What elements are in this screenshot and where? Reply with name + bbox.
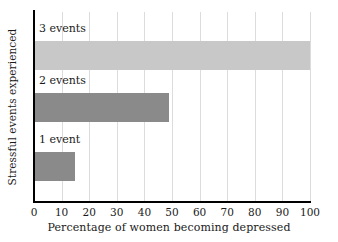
x-tick-label: 30 xyxy=(102,205,132,219)
chart-figure: Stressful events experienced 3 events2 e… xyxy=(0,0,338,242)
x-tick-label: 10 xyxy=(47,205,77,219)
x-tick-label: 40 xyxy=(129,205,159,219)
x-axis-label: Percentage of women becoming depressed xyxy=(0,221,338,235)
x-tick-label: 50 xyxy=(157,205,187,219)
y-axis-line xyxy=(33,10,35,202)
bar xyxy=(34,93,169,122)
x-axis-line xyxy=(33,201,311,203)
bar-category-label: 3 events xyxy=(39,22,86,35)
bar-category-label: 1 event xyxy=(39,133,80,146)
x-tick-label: 20 xyxy=(74,205,104,219)
x-tick-label: 100 xyxy=(295,205,325,219)
gridline xyxy=(310,12,311,202)
y-axis-label-container: Stressful events experienced xyxy=(2,12,18,202)
bar xyxy=(34,41,310,70)
x-tick-label: 90 xyxy=(267,205,297,219)
bar xyxy=(34,152,75,181)
x-tick-label: 60 xyxy=(185,205,215,219)
bar-category-label: 2 events xyxy=(39,74,86,87)
x-tick-label: 70 xyxy=(212,205,242,219)
x-tick-label: 0 xyxy=(19,205,49,219)
plot-area: 3 events2 events1 event xyxy=(34,12,310,202)
x-tick-label: 80 xyxy=(240,205,270,219)
y-axis-label: Stressful events experienced xyxy=(4,12,20,202)
